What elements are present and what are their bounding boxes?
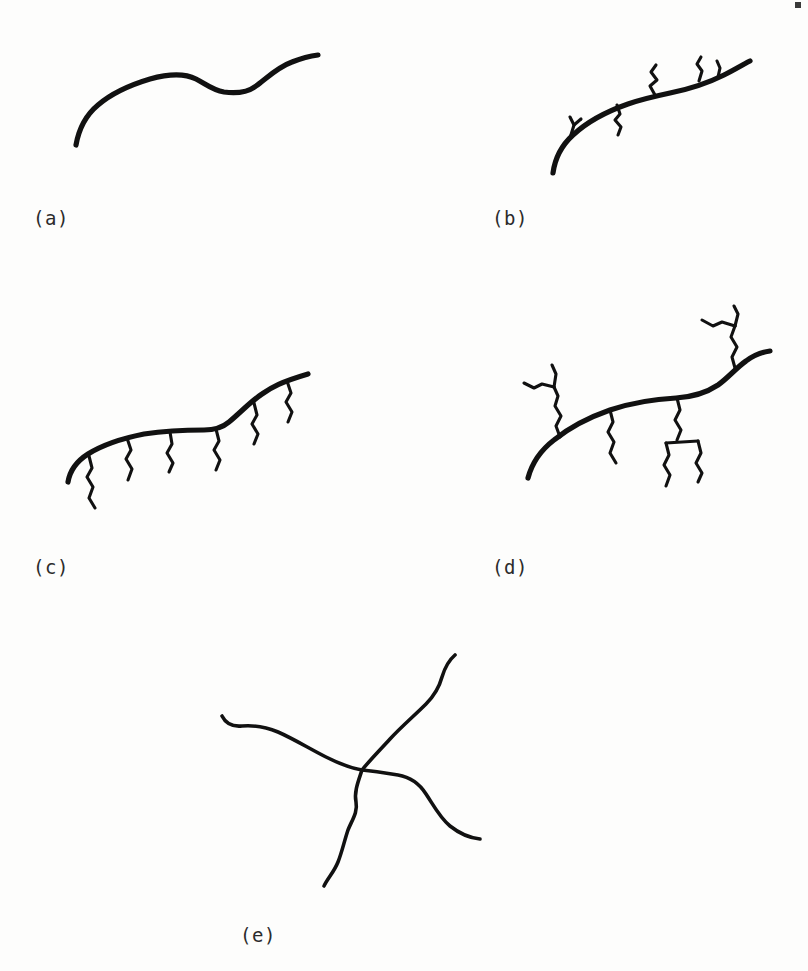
panel-b-short-branched: (b) <box>470 0 808 250</box>
figure-sheet: (a) (b) <box>0 0 808 971</box>
panel-e-drawing <box>190 620 550 920</box>
panel-b-label: (b) <box>492 207 528 229</box>
panel-d-randomly-branched: (d) <box>470 300 808 590</box>
panel-a-label: (a) <box>33 207 69 229</box>
branch-4 <box>697 57 702 81</box>
panel-c-comb: (c) <box>0 360 404 610</box>
comb-tooth-1 <box>87 456 95 508</box>
backbone <box>68 374 308 482</box>
linear-backbone <box>76 55 318 145</box>
comb-tooth-6 <box>286 381 292 422</box>
branch-h-leg-left <box>664 443 670 486</box>
branch-5 <box>717 61 720 77</box>
comb-tooth-4 <box>214 429 220 470</box>
panel-a-linear: (a) <box>0 0 404 250</box>
branch-h-leg-right <box>696 441 702 482</box>
branch-middle-pendant <box>608 410 616 463</box>
star-arm-1 <box>362 655 455 770</box>
branch-upper-fork-a <box>702 320 735 326</box>
panel-c-label: (c) <box>33 556 69 578</box>
panel-e-label: (e) <box>240 924 276 946</box>
backbone <box>528 351 770 478</box>
panel-e-star: (e) <box>190 620 550 971</box>
panel-d-drawing <box>470 300 808 590</box>
branch-left-fork-b <box>552 365 556 387</box>
comb-tooth-5 <box>252 403 258 444</box>
branch-h-crossbar <box>666 441 698 443</box>
branch-left-stem <box>554 387 561 437</box>
branch-upper-fork-b <box>734 306 738 326</box>
branch-upper-stem <box>731 326 737 368</box>
branch-3 <box>650 65 657 95</box>
panel-d-label: (d) <box>492 556 528 578</box>
branch-1b <box>574 119 581 125</box>
comb-tooth-3 <box>167 432 173 472</box>
branch-left-fork-a <box>524 383 554 388</box>
star-arm-3 <box>362 770 480 839</box>
branch-h-stem <box>675 398 681 440</box>
comb-tooth-2 <box>126 438 132 480</box>
scan-speck <box>795 2 801 8</box>
star-arm-4 <box>324 770 362 886</box>
backbone <box>553 61 750 173</box>
star-arm-2 <box>222 716 362 770</box>
